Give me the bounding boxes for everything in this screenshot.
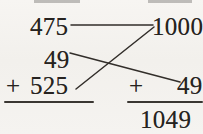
connector-49-to-49 <box>70 53 180 82</box>
connector-lines-group <box>0 0 203 134</box>
arithmetic-matching-figure: 475 49 + 525 1000 + 49 1049 <box>0 0 203 134</box>
